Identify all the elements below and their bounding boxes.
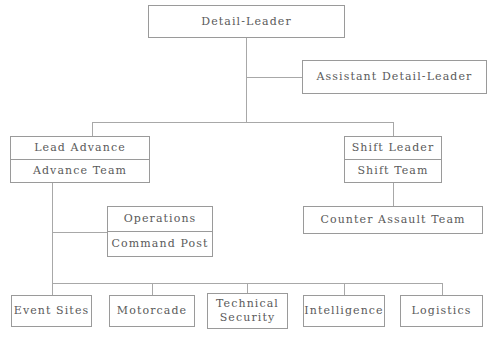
connector-drop-shift-leader	[393, 122, 394, 136]
node-assistant-detail-leader-label: Assistant Detail-Leader	[303, 61, 486, 93]
connector-drop-event-sites	[52, 283, 53, 295]
connector-drop-intelligence	[344, 283, 345, 295]
node-lead-advance-label: Lead Advance	[11, 137, 149, 159]
node-shift-leader-label: Shift Leader	[345, 137, 441, 159]
node-detail-leader-label: Detail-Leader	[149, 6, 344, 37]
node-intelligence[interactable]: Intelligence	[303, 295, 385, 327]
node-shift-leader-group[interactable]: Shift Leader Shift Team	[344, 136, 442, 183]
node-logistics[interactable]: Logistics	[400, 295, 483, 327]
connector-detail-leader-spine	[246, 38, 247, 123]
node-motorcade-label: Motorcade	[110, 296, 194, 326]
node-operations-label: Operations	[108, 207, 212, 231]
connector-drop-motorcade	[152, 283, 153, 295]
node-event-sites-label: Event Sites	[12, 296, 91, 326]
node-technical-security[interactable]: Technical Security	[207, 293, 288, 329]
node-detail-leader[interactable]: Detail-Leader	[148, 5, 345, 38]
connector-level2-bus	[92, 122, 394, 123]
node-lead-advance-group[interactable]: Lead Advance Advance Team	[10, 136, 150, 183]
node-operations-group[interactable]: Operations Command Post	[107, 206, 213, 257]
node-shift-team-label: Shift Team	[345, 159, 441, 182]
node-logistics-label: Logistics	[401, 296, 482, 326]
connector-to-counter-assault-team	[393, 183, 394, 206]
node-event-sites[interactable]: Event Sites	[11, 295, 92, 327]
connector-drop-lead-advance	[92, 122, 93, 136]
connector-to-assistant-detail-leader	[246, 77, 302, 78]
node-counter-assault-team-label: Counter Assault Team	[304, 207, 482, 233]
node-intelligence-label: Intelligence	[304, 296, 384, 326]
node-assistant-detail-leader[interactable]: Assistant Detail-Leader	[302, 60, 487, 94]
connector-drop-logistics	[442, 283, 443, 295]
connector-advance-team-spine	[52, 183, 53, 284]
node-motorcade[interactable]: Motorcade	[109, 295, 195, 327]
node-advance-team-label: Advance Team	[11, 159, 149, 182]
connector-to-operations	[52, 232, 108, 233]
org-chart: Detail-Leader Assistant Detail-Leader Le…	[0, 0, 493, 343]
node-technical-security-label: Technical Security	[208, 294, 287, 328]
node-command-post-label: Command Post	[108, 231, 212, 256]
node-counter-assault-team[interactable]: Counter Assault Team	[303, 206, 483, 234]
